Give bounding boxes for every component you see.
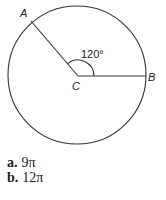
circle-diagram-svg: A B C 120° xyxy=(0,0,166,150)
option-value: 9π xyxy=(22,155,36,170)
radius-ca xyxy=(31,21,78,76)
option-b: b.12π xyxy=(7,170,43,185)
option-key: a. xyxy=(7,155,18,170)
option-a: a.9π xyxy=(7,155,43,170)
answer-options: a.9π b.12π xyxy=(7,155,43,185)
angle-label: 120° xyxy=(81,48,104,60)
point-b-label: B xyxy=(148,71,155,83)
center-label: C xyxy=(72,80,80,92)
option-key: b. xyxy=(7,170,18,185)
circle-diagram: A B C 120° xyxy=(0,0,166,150)
option-value: 12π xyxy=(22,170,43,185)
point-a-label: A xyxy=(19,7,27,19)
